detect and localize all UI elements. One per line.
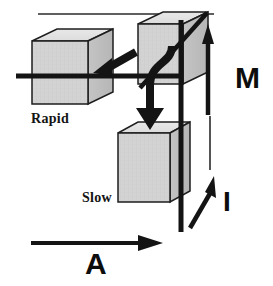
axis-arrow-i [190,176,216,228]
diagram-figure: Rapid Slow M I A [0,0,273,286]
axis-label-m: M [235,63,260,93]
axis-label-i: I [223,188,231,216]
axis-label-a: A [85,249,107,279]
block-label-slow: Slow [82,191,112,205]
diagram-canvas [0,0,273,286]
block-label-rapid: Rapid [31,112,69,126]
block-rapid [32,29,113,104]
